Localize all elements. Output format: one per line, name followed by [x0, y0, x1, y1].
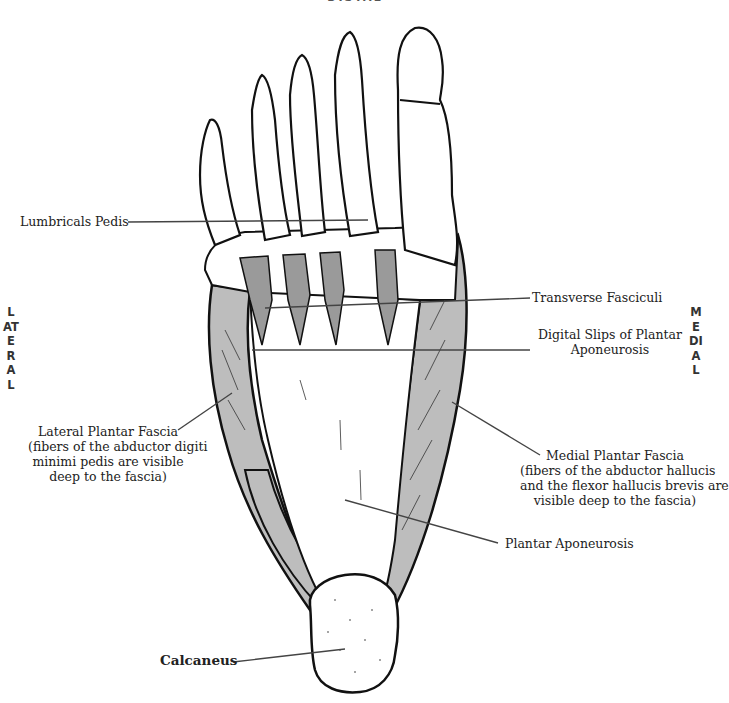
- lateral-vertical-text: LATERAL: [3, 305, 19, 392]
- lateral-line2: minimi pedis are visible: [28, 454, 188, 469]
- digital-slips-line2: Aponeurosis: [520, 342, 700, 357]
- label-plantar-aponeurosis: Plantar Aponeurosis: [505, 536, 634, 551]
- label-lateral-plantar-fascia: Lateral Plantar Fascia (fibers of the ab…: [28, 424, 188, 484]
- calcaneus-shape: [310, 574, 398, 692]
- leader-lumbricals: [128, 220, 368, 222]
- toe-2: [335, 32, 378, 236]
- toe-5: [200, 120, 240, 245]
- lateral-title: Lateral Plantar Fascia: [28, 424, 188, 439]
- medial-title: Medial Plantar Fascia: [520, 448, 710, 463]
- toe-1-hallux: [398, 28, 458, 265]
- label-lumbricals-pedis: Lumbricals Pedis: [20, 214, 129, 229]
- orientation-lateral: LATERAL: [3, 305, 19, 392]
- toe-3: [290, 55, 325, 236]
- medial-line2: and the flexor hallucis brevis are: [520, 478, 710, 493]
- digital-slips-line1: Digital Slips of Plantar: [520, 327, 700, 342]
- lateral-line3: deep to the fascia): [28, 469, 188, 484]
- medial-line3: visible deep to the fascia): [520, 493, 710, 508]
- lateral-line1: (fibers of the abductor digiti: [28, 439, 188, 454]
- medial-line1: (fibers of the abductor hallucis: [520, 463, 710, 478]
- label-transverse-fasciculi: Transverse Fasciculi: [532, 290, 662, 305]
- label-calcaneus: Calcaneus: [160, 653, 237, 668]
- label-digital-slips: Digital Slips of Plantar Aponeurosis: [520, 327, 700, 357]
- toe-4: [252, 75, 290, 240]
- label-medial-plantar-fascia: Medial Plantar Fascia (fibers of the abd…: [520, 448, 710, 508]
